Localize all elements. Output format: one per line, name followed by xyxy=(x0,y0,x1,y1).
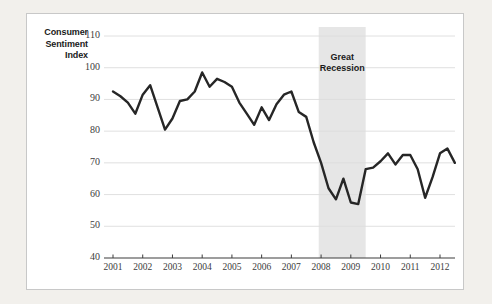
great-recession-label-line-1: Great xyxy=(305,52,379,63)
great-recession-label-line-2: Recession xyxy=(305,63,379,74)
y-tick-label-100: 100 xyxy=(74,61,100,72)
y-tick-label-90: 90 xyxy=(74,92,100,103)
y-axis-title-line-2: Sentiment xyxy=(30,39,88,51)
y-tick-label-110: 110 xyxy=(74,29,100,40)
gridlines xyxy=(104,36,455,226)
x-tick-label-2012: 2012 xyxy=(420,262,460,272)
y-tick-label-40: 40 xyxy=(74,251,100,262)
data-line xyxy=(113,72,455,204)
y-tick-label-80: 80 xyxy=(74,124,100,135)
y-tick-label-60: 60 xyxy=(74,188,100,199)
y-tick-label-70: 70 xyxy=(74,156,100,167)
great-recession-label: Great Recession xyxy=(305,52,379,74)
y-tick-label-50: 50 xyxy=(74,219,100,230)
